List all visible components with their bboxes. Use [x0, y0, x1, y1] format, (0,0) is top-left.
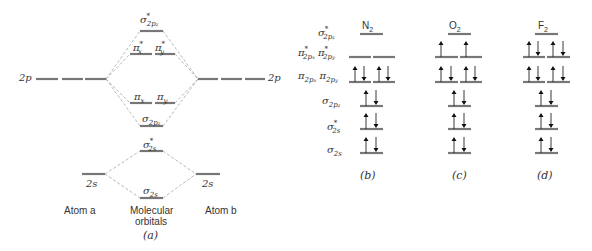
- orbitals-label: orbitals: [130, 217, 172, 227]
- row-label-sigma-2s: σ2s: [327, 145, 342, 158]
- row-label-pi-star: π*2px π*2py: [298, 46, 335, 61]
- left-2p-label: 2p: [19, 73, 32, 83]
- caption-b: (b): [360, 169, 376, 182]
- sigma-star-2s-label: σ*2s: [143, 138, 156, 153]
- row-label-sigma-star-2pz: σ*2pz: [318, 26, 335, 41]
- right-2s-label: 2s: [202, 179, 214, 189]
- molecule-label-f2: F2: [538, 21, 548, 33]
- molecular-label: Molecular: [130, 206, 172, 216]
- row-label-sigma-2pz: σ2pz: [322, 96, 340, 109]
- caption-c: (c): [452, 169, 467, 182]
- correlation-lines-2p: [106, 31, 198, 126]
- sigma-2s-label: σ2s: [143, 186, 158, 199]
- atom-a-label: Atom a: [64, 206, 96, 216]
- right-2p-label: 2p: [268, 73, 281, 83]
- caption-a: (a): [143, 229, 158, 242]
- molecule-levels: [349, 34, 570, 153]
- caption-d: (d): [537, 169, 553, 182]
- pi-star-x-label: π*x: [133, 41, 142, 56]
- row-label-pi: π2px π2py: [298, 71, 338, 84]
- sigma-2pz-label: σ2pz: [142, 114, 160, 127]
- pi-star-y-label: π*y: [155, 41, 164, 56]
- molecule-label-n2: N2: [362, 21, 373, 33]
- pi-y-label: πy: [157, 92, 168, 105]
- row-label-sigma-star-2s: σ*2s: [327, 120, 340, 135]
- pi-x-label: πx: [134, 92, 145, 105]
- molecule-label-o2: O2: [449, 21, 461, 33]
- left-2s-label: 2s: [86, 179, 98, 189]
- sigma-star-2pz-label: σ2pz*: [140, 13, 150, 28]
- atom-b-label: Atom b: [205, 206, 237, 216]
